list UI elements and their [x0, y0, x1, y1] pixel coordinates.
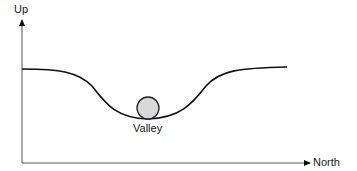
valley-diagram: [0, 0, 357, 171]
ball-label: Valley: [133, 122, 162, 134]
ball: [137, 97, 159, 119]
y-axis-label: Up: [14, 3, 28, 15]
x-axis-label: North: [313, 156, 340, 168]
